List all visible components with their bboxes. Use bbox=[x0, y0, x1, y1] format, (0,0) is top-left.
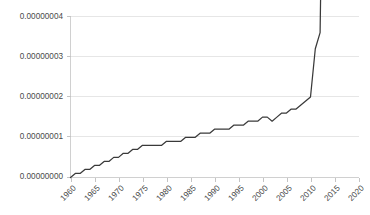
x-tick-label-2000: 2000 bbox=[251, 183, 271, 203]
y-tick-label-1: 0.00000001 bbox=[20, 132, 64, 141]
y-axis-labels: 0.00000004 0.00000003 0.00000002 0.00000… bbox=[20, 12, 64, 181]
x-tick-label-1990: 1990 bbox=[203, 183, 223, 203]
x-tick-label-2005: 2005 bbox=[275, 183, 295, 203]
series-group bbox=[71, 0, 359, 178]
x-tick-label-2010: 2010 bbox=[299, 183, 319, 203]
y-tick-label-4: 0.00000004 bbox=[20, 12, 64, 21]
x-tick-label-1970: 1970 bbox=[107, 183, 127, 203]
line-chart: 0.00000004 0.00000003 0.00000002 0.00000… bbox=[0, 0, 370, 215]
chart-container: 0.00000004 0.00000003 0.00000002 0.00000… bbox=[0, 0, 370, 215]
x-axis-ticks bbox=[72, 178, 360, 182]
x-tick-label-1985: 1985 bbox=[179, 183, 199, 203]
x-axis-labels: 1960196519701975198019851990199520002005… bbox=[59, 183, 367, 203]
x-tick-label-1995: 1995 bbox=[227, 183, 247, 203]
x-tick-label-1965: 1965 bbox=[83, 183, 103, 203]
y-tick-label-0: 0.00000000 bbox=[20, 172, 64, 181]
x-tick-label-2015: 2015 bbox=[323, 183, 343, 203]
x-tick-label-2020: 2020 bbox=[347, 183, 367, 203]
x-tick-label-1980: 1980 bbox=[155, 183, 175, 203]
series-line-value bbox=[71, 0, 359, 178]
y-tick-label-2: 0.00000002 bbox=[20, 92, 64, 101]
y-tick-label-3: 0.00000003 bbox=[20, 52, 64, 61]
y-axis-ticks bbox=[67, 17, 71, 178]
gridlines bbox=[71, 17, 359, 137]
x-tick-label-1975: 1975 bbox=[131, 183, 151, 203]
x-tick-label-1960: 1960 bbox=[59, 183, 79, 203]
